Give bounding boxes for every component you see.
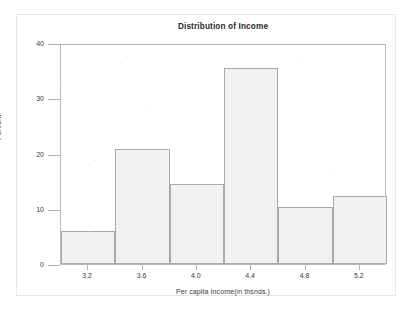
histogram-bar	[224, 68, 278, 264]
x-axis-tick-label: 4.4	[232, 272, 268, 279]
histogram-bar	[61, 231, 115, 264]
y-axis-tick-label: 20	[22, 151, 44, 158]
scan-artifact	[88, 225, 89, 226]
scan-artifact	[330, 175, 331, 176]
y-axis-tick	[48, 99, 60, 100]
x-axis-tick	[196, 265, 197, 270]
x-axis-tick-label: 5.2	[341, 272, 377, 279]
x-axis-tick-label: 3.2	[69, 272, 105, 279]
x-axis-tick-label: 4.8	[287, 272, 323, 279]
y-axis-tick-label: 0	[22, 261, 44, 268]
histogram-bar	[278, 207, 332, 264]
plot-area	[60, 44, 386, 265]
x-axis-tick-label: 3.6	[124, 272, 160, 279]
x-axis-tick	[87, 265, 88, 270]
scan-artifact	[300, 60, 301, 61]
x-axis-tick	[142, 265, 143, 270]
scan-artifact	[120, 62, 121, 63]
scan-artifact	[62, 83, 63, 84]
y-axis-tick	[48, 44, 60, 45]
x-axis-tick-label: 4.0	[178, 272, 214, 279]
histogram-bar	[170, 184, 224, 264]
y-axis-tick-label: 10	[22, 206, 44, 213]
histogram-chart: Distribution of Income Percent 010203040…	[0, 0, 412, 322]
histogram-bar	[115, 149, 169, 264]
y-axis-tick-label: 30	[22, 95, 44, 102]
scan-artifact	[95, 160, 96, 161]
y-axis-title: Percent	[0, 114, 2, 140]
x-axis-tick	[250, 265, 251, 270]
scan-artifact	[210, 250, 211, 251]
y-axis-tick	[48, 265, 60, 266]
x-axis-title: Per capita Income(in thsnds.)	[60, 288, 386, 295]
chart-title: Distribution of Income	[60, 22, 386, 31]
histogram-bar	[333, 196, 387, 264]
x-axis-tick	[305, 265, 306, 270]
y-axis-tick-label: 40	[22, 40, 44, 47]
x-axis-tick	[359, 265, 360, 270]
y-axis-tick	[48, 210, 60, 211]
scan-artifact	[145, 105, 146, 106]
y-axis-tick	[48, 155, 60, 156]
bars-container	[61, 45, 385, 264]
